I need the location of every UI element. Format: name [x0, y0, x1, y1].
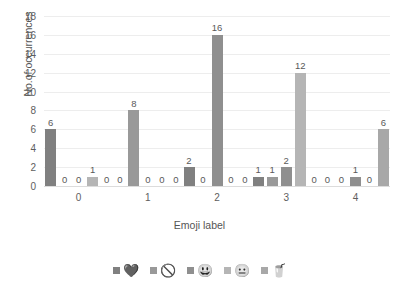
legend-swatch: [113, 267, 120, 274]
bar-groups: 600100800020160011212000106: [44, 16, 390, 186]
bar-prohibited[interactable]: [267, 177, 278, 186]
bar-slot: 2: [184, 16, 195, 186]
bar-slot: 0: [170, 16, 181, 186]
bar-group: 60010: [44, 16, 113, 186]
bar-grinning-face[interactable]: [281, 167, 292, 186]
bar-cup[interactable]: [378, 129, 389, 186]
bar-group: 201600: [182, 16, 251, 186]
bar-chart: No.of occurrences 024681012141618 600100…: [0, 0, 399, 298]
bar-value-label: 2: [186, 156, 191, 166]
y-axis-tick: 4: [0, 143, 36, 154]
bar-slot: 0: [240, 16, 251, 186]
bar-value-label: 0: [173, 175, 178, 185]
bar-heart[interactable]: [253, 177, 264, 186]
bar-slot: 6: [45, 16, 56, 186]
bar-neutral-face[interactable]: [87, 177, 98, 186]
bar-slot: 0: [142, 16, 153, 186]
legend-swatch: [224, 267, 231, 274]
y-axis-tick: 12: [0, 67, 36, 78]
bar-value-label: 0: [159, 175, 164, 185]
bar-group: 00106: [321, 16, 390, 186]
bar-value-label: 12: [295, 61, 306, 71]
bar-value-label: 6: [48, 118, 53, 128]
bar-slot: 0: [101, 16, 112, 186]
bar-heart[interactable]: [184, 167, 195, 186]
legend-swatch: [150, 267, 157, 274]
bar-value-label: 0: [62, 175, 67, 185]
bar-slot: 1: [267, 16, 278, 186]
y-axis-tick: 14: [0, 48, 36, 59]
gridline: [44, 186, 390, 187]
x-axis-tick-labels: 01234: [44, 192, 390, 203]
bar-slot: 1: [87, 16, 98, 186]
bar-value-label: 0: [228, 175, 233, 185]
bar-group: 08000: [113, 16, 182, 186]
y-axis-tick: 18: [0, 11, 36, 22]
bar-value-label: 8: [131, 99, 136, 109]
y-axis-tick: 10: [0, 86, 36, 97]
bar-heart[interactable]: [45, 129, 56, 186]
bar-slot: 0: [114, 16, 125, 186]
bar-value-label: 0: [117, 175, 122, 185]
y-axis-tick: 8: [0, 105, 36, 116]
y-axis-tick-labels: 024681012141618: [0, 16, 40, 186]
bar-value-label: 0: [325, 175, 330, 185]
bar-slot: 0: [309, 16, 320, 186]
cup-icon: 🥤: [271, 264, 287, 277]
neutral-face-icon: 😐: [234, 264, 250, 277]
bar-value-label: 0: [145, 175, 150, 185]
bar-grinning-face[interactable]: [212, 35, 223, 186]
bar-slot: 0: [336, 16, 347, 186]
bar-slot: 6: [378, 16, 389, 186]
plot-area: 600100800020160011212000106: [44, 16, 390, 186]
bar-value-label: 16: [212, 23, 223, 33]
bar-slot: 2: [281, 16, 292, 186]
legend-swatch: [261, 267, 268, 274]
x-axis-tick: 4: [321, 192, 390, 203]
heart-icon: 💜: [123, 264, 139, 277]
bar-value-label: 0: [242, 175, 247, 185]
x-axis-title: Emoji label: [0, 219, 399, 231]
bar-prohibited[interactable]: [128, 110, 139, 186]
grinning-face-icon: 😃: [197, 264, 213, 277]
y-axis-tick: 16: [0, 29, 36, 40]
bar-value-label: 1: [270, 165, 275, 175]
x-axis-tick: 0: [44, 192, 113, 203]
bar-slot: 0: [226, 16, 237, 186]
bar-neutral-face[interactable]: [295, 73, 306, 186]
bar-slot: 0: [322, 16, 333, 186]
bar-slot: 0: [59, 16, 70, 186]
bar-value-label: 0: [339, 175, 344, 185]
bar-value-label: 6: [381, 118, 386, 128]
y-axis-tick: 0: [0, 181, 36, 192]
bar-slot: 0: [364, 16, 375, 186]
bar-value-label: 0: [76, 175, 81, 185]
bar-value-label: 1: [90, 165, 95, 175]
bar-slot: 1: [350, 16, 361, 186]
legend-swatch: [187, 267, 194, 274]
x-axis-tick: 1: [113, 192, 182, 203]
bar-value-label: 1: [353, 165, 358, 175]
bar-value-label: 1: [256, 165, 261, 175]
y-axis-tick: 6: [0, 124, 36, 135]
chart-legend: 💜🚫😃😐🥤: [0, 264, 399, 277]
legend-item-prohibited[interactable]: 🚫: [150, 264, 176, 277]
legend-item-grinning-face[interactable]: 😃: [187, 264, 213, 277]
prohibited-icon: 🚫: [160, 264, 176, 277]
bar-slot: 0: [73, 16, 84, 186]
x-axis-tick: 2: [182, 192, 251, 203]
legend-item-heart[interactable]: 💜: [113, 264, 139, 277]
bar-value-label: 0: [104, 175, 109, 185]
bar-value-label: 0: [200, 175, 205, 185]
x-axis-tick: 3: [252, 192, 321, 203]
bar-grinning-face[interactable]: [350, 177, 361, 186]
y-axis-tick: 2: [0, 162, 36, 173]
bar-value-label: 2: [284, 156, 289, 166]
bar-slot: 0: [156, 16, 167, 186]
bar-slot: 8: [128, 16, 139, 186]
bar-slot: 1: [253, 16, 264, 186]
bar-slot: 12: [295, 16, 306, 186]
legend-item-neutral-face[interactable]: 😐: [224, 264, 250, 277]
bar-value-label: 0: [367, 175, 372, 185]
legend-item-cup[interactable]: 🥤: [261, 264, 287, 277]
